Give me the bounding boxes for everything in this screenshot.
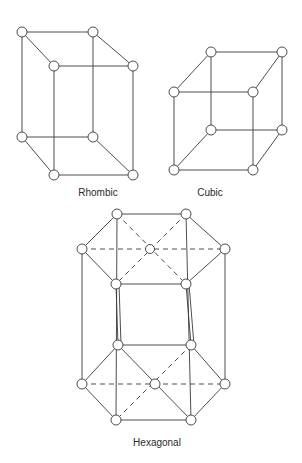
- rhombic-label: Rhombic: [78, 187, 117, 198]
- crystal-lattices-diagram: [0, 0, 302, 463]
- cubic-label: Cubic: [197, 187, 223, 198]
- rhombic-lattice: [17, 27, 138, 180]
- cubic-lattice: [169, 47, 287, 175]
- hexagonal-lattice: [77, 209, 230, 425]
- hexagonal-label: Hexagonal: [133, 437, 181, 448]
